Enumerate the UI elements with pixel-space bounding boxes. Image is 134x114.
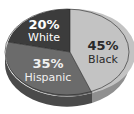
label-black-category: Black xyxy=(88,53,118,66)
label-white-percent: 20% xyxy=(28,17,59,32)
label-hispanic-category: Hispanic xyxy=(25,71,72,84)
label-black-percent: 45% xyxy=(87,38,118,53)
pie-chart: 20% White 45% Black 35% Hispanic xyxy=(0,0,134,114)
label-white-category: White xyxy=(28,31,60,44)
label-hispanic-percent: 35% xyxy=(32,56,63,71)
